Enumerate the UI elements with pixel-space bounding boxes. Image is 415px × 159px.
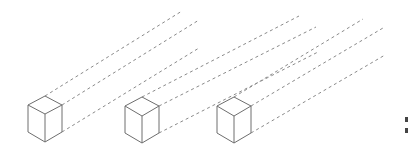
edge-mark xyxy=(405,117,408,122)
cube-top-edge xyxy=(28,105,62,114)
projection-line xyxy=(251,55,385,133)
projection-line xyxy=(45,11,182,96)
cube-3 xyxy=(217,19,385,143)
cube-2 xyxy=(125,16,318,143)
projection-line xyxy=(234,19,363,97)
edge-mark xyxy=(405,128,408,133)
projection-line xyxy=(62,20,199,105)
projection-line xyxy=(159,27,316,106)
diagram-canvas xyxy=(0,0,415,159)
cube-1 xyxy=(28,11,199,142)
projection-line xyxy=(142,16,299,97)
projection-line xyxy=(159,52,318,133)
cube-top-edge xyxy=(125,106,159,116)
projection-line xyxy=(251,28,383,106)
projection-line xyxy=(62,48,199,132)
cube-top-edge xyxy=(217,106,251,116)
